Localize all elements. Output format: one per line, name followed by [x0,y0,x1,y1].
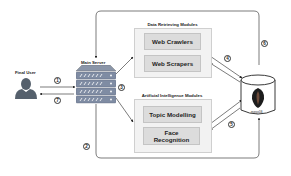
web-crawlers-module: Web Crawlers [144,33,201,50]
step-1-badge: 1 [54,77,61,84]
step-7-badge: 7 [54,97,61,104]
web-scrapers-module: Web Scrapers [144,55,201,72]
data-retrieving-modules-title: Data Retrieving Modules [135,22,210,27]
step-2-badge: 2 [83,143,90,150]
step-4-badge: 4 [224,55,231,62]
step-3-badge: 3 [118,84,125,91]
person-icon [14,77,38,99]
server-stack-icon [76,65,116,105]
face-recognition-module: Face Recognition [143,127,200,145]
database-icon [240,74,276,116]
step-6-badge: 6 [261,40,268,47]
step-5-badge: 5 [228,121,235,128]
mongodb-label: mongoDB [251,111,263,114]
topic-modelling-module: Topic Modelling [143,106,202,123]
final-user-label: Final User [15,70,36,75]
ai-modules-title: Artificial Intelligence Modules [132,93,212,98]
